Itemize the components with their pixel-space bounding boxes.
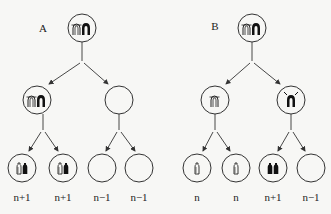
gamete-b-2 [222,154,250,182]
meiosis-i-cell-a-right [105,86,133,114]
diagram-canvas [0,0,331,214]
chromosome-pair-open-icon [72,24,82,35]
gamete-a-3 [88,154,116,182]
panel-a [8,14,153,182]
arrow-icon [84,63,108,84]
nondisjunction-diagram: A B n+1 n+1 n−1 n−1 n n n+1 n−1 [0,0,331,214]
gamete-b-3 [259,154,287,182]
meiosis-i-cell-b-right [277,86,305,114]
ploidy-label: n+1 [264,191,281,203]
ploidy-label: n−1 [302,191,319,203]
arrow-icon [49,63,80,84]
chromosome-pair-filled-icon [82,23,90,35]
panel-b [183,14,325,182]
ploidy-label: n−1 [93,191,110,203]
panel-label-a: A [39,22,47,34]
ploidy-label: n+1 [54,191,71,203]
gamete-b-4 [297,154,325,182]
ploidy-label: n+1 [13,191,30,203]
gamete-b-1 [183,154,211,182]
gamete-a-1 [8,154,36,182]
ploidy-label: n [233,191,239,203]
meiosis-i-cell-b-left [201,86,229,114]
gamete-a-2 [49,154,77,182]
gamete-a-4 [125,154,153,182]
panel-label-b: B [211,20,218,32]
ploidy-label: n [194,191,200,203]
ploidy-label: n−1 [130,191,147,203]
